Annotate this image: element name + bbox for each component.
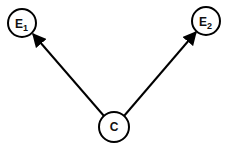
node-e2-label: E — [199, 15, 207, 29]
node-e1-label: E — [15, 17, 23, 31]
node-e1-subscript: 1 — [23, 23, 28, 33]
node-e2-subscript: 2 — [207, 21, 212, 31]
node-e1: E1 — [8, 9, 36, 37]
node-c-label: C — [110, 120, 119, 134]
diagram-canvas: E1 E2 C — [0, 0, 228, 156]
edge-c-to-e1 — [33, 34, 104, 116]
edge-c-to-e2 — [124, 32, 196, 116]
node-c: C — [99, 112, 129, 142]
node-e2: E2 — [192, 7, 220, 35]
